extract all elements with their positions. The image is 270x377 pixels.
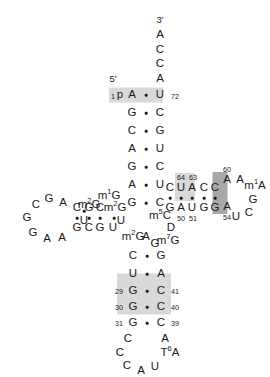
nt-G70: G xyxy=(156,125,165,137)
nt-C27: C xyxy=(129,250,137,262)
nt-A35: A xyxy=(137,365,145,377)
index-72: 72 xyxy=(171,93,179,100)
nt-m5C48: m5C xyxy=(149,210,171,222)
index-60: 60 xyxy=(223,166,231,173)
nt-T54: A xyxy=(223,201,231,213)
nt-C33: C xyxy=(116,347,124,359)
nt-C62: C xyxy=(200,182,208,194)
pair-dot-52-62 xyxy=(203,197,206,200)
nt-G52: G xyxy=(200,202,209,214)
nt-G31: G xyxy=(129,317,138,329)
index-50: 50 xyxy=(177,215,185,222)
nt-C68: C xyxy=(156,161,164,173)
nt-m2G9: m2G xyxy=(78,199,101,211)
pair-dot-27-43 xyxy=(146,255,149,258)
index-30: 30 xyxy=(115,304,123,311)
nt-U9: U xyxy=(80,215,88,227)
nt-C41: C xyxy=(157,285,165,297)
nt-U64: U xyxy=(177,182,185,194)
nt-A76: A xyxy=(156,29,164,41)
nt-U55: U xyxy=(232,211,240,223)
nt-G57: G xyxy=(249,194,258,206)
index-39: 39 xyxy=(171,320,179,327)
pair-dot-3-70 xyxy=(145,130,148,133)
nt-C39: C xyxy=(157,317,165,329)
nt-A63: A xyxy=(188,182,196,194)
nt-m2G27: m2G xyxy=(122,231,145,243)
index-54: 54 xyxy=(223,214,231,221)
nt-C32: C xyxy=(124,333,132,345)
nt-G29: G xyxy=(129,285,138,297)
nt-G17: G xyxy=(45,193,54,205)
nt-A50: A xyxy=(177,202,185,214)
nt-A42: A xyxy=(157,268,165,280)
nt-A73: A xyxy=(156,73,164,85)
pair-dot-29-41 xyxy=(146,290,149,293)
nt-A16: A xyxy=(59,197,67,209)
five-prime-label: 5' xyxy=(109,74,116,84)
nt-C75: C xyxy=(156,44,164,56)
pair-dot-30-40 xyxy=(146,306,149,309)
nt-C18: C xyxy=(32,199,40,211)
nt-U26: U xyxy=(109,222,117,234)
pair-dot-28-42 xyxy=(146,273,149,276)
nt-m2G14: m2G xyxy=(104,202,127,214)
pair-dot-14-21 xyxy=(113,217,116,220)
nt-U28: U xyxy=(129,268,137,280)
nt-G43: G xyxy=(157,250,166,262)
pair-dot-53-61 xyxy=(214,197,217,200)
nt-G53: G xyxy=(211,202,220,214)
pair-dot-4-69 xyxy=(145,148,148,151)
nt-C56: C xyxy=(245,207,253,219)
nt-A22: A xyxy=(58,232,66,244)
nt-A21: A xyxy=(43,233,51,245)
nt-C65: C xyxy=(166,182,174,194)
pair-dot-49-65 xyxy=(169,197,172,200)
index-51: 51 xyxy=(189,215,197,222)
three-prime-label: 3' xyxy=(156,15,163,25)
index-1: 1 xyxy=(111,93,115,100)
pair-dot-51-63 xyxy=(191,197,194,200)
nt-C61: C xyxy=(211,182,219,194)
index-64: 64 xyxy=(177,174,185,181)
nt-A6: A xyxy=(128,179,136,191)
nt-A4: A xyxy=(128,143,136,155)
nt-G30: G xyxy=(129,301,138,313)
nt-m1G10: m1G xyxy=(98,190,121,202)
pair-dot-7-66 xyxy=(145,202,148,205)
pair-dot-31-39 xyxy=(146,322,149,325)
index-31: 31 xyxy=(115,320,123,327)
nt-A1: A xyxy=(128,89,136,101)
nt-C3: C xyxy=(128,125,136,137)
nt-C34: C xyxy=(123,360,131,372)
nt-G20: G xyxy=(29,227,38,239)
nt-p-phosphate: p xyxy=(117,89,123,101)
nt-G25: G xyxy=(96,222,105,234)
nt-G45: G xyxy=(151,238,160,250)
nt-C40: C xyxy=(157,301,165,313)
nt-U51: U xyxy=(188,202,196,214)
index-40: 40 xyxy=(171,304,179,311)
nt-G5: G xyxy=(128,161,137,173)
pair-dot-13-22 xyxy=(99,217,102,220)
index-63: 63 xyxy=(189,174,197,181)
nt-m7G46: m7G xyxy=(157,235,180,247)
pair-dot-11-24 xyxy=(76,217,79,220)
nt-A38: A xyxy=(161,333,169,345)
index-29: 29 xyxy=(115,288,123,295)
pair-dot-9 xyxy=(83,210,86,213)
nt-U67: U xyxy=(156,179,164,191)
nt-C74: C xyxy=(156,58,164,70)
pair-dot-1-72 xyxy=(145,94,148,97)
nt-A60: A xyxy=(223,174,231,186)
nt-U72: U xyxy=(156,89,164,101)
nt-A59: A xyxy=(236,174,244,186)
nt-t6A37: T6A xyxy=(161,347,180,359)
nt-U36: U xyxy=(151,361,159,373)
nt-U8: U xyxy=(117,215,125,227)
pair-dot-50-64 xyxy=(180,197,183,200)
pair-dot-5-68 xyxy=(145,166,148,169)
nt-G2: G xyxy=(128,107,137,119)
nt-m1A58: m1A xyxy=(244,180,265,192)
